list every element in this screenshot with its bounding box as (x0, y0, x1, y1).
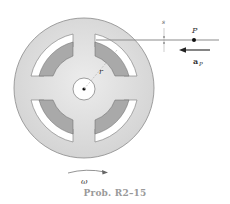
acceleration-subscript: P (198, 61, 203, 67)
omega-label: ω (81, 177, 88, 186)
tape-reel-diagram: r s P a P ω (0, 0, 230, 204)
acceleration-label: a (193, 56, 198, 66)
s-label: s (162, 18, 165, 25)
acceleration-arrow (179, 47, 210, 53)
point-P (192, 38, 196, 42)
omega-arrow (68, 170, 105, 173)
figure-caption: Prob. R2–15 (0, 188, 230, 198)
P-label: P (191, 26, 198, 35)
